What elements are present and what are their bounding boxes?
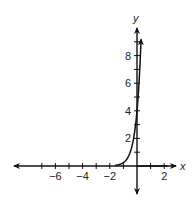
y-tick-label: 4 [125, 105, 131, 117]
chart-canvas: −6−4−222468 x y [0, 0, 194, 202]
axes [14, 28, 176, 194]
x-tick-label: −6 [49, 170, 62, 182]
y-tick-label: 6 [125, 77, 131, 89]
y-tick-label: 2 [125, 132, 131, 144]
y-tick-label: 8 [125, 50, 131, 62]
x-tick-label: −4 [76, 170, 89, 182]
x-tick-label: −2 [104, 170, 117, 182]
y-axis-label: y [132, 12, 140, 24]
ticks: −6−4−222468 [42, 42, 167, 182]
x-axis-label: x [179, 160, 186, 172]
x-tick-label: 2 [161, 170, 167, 182]
